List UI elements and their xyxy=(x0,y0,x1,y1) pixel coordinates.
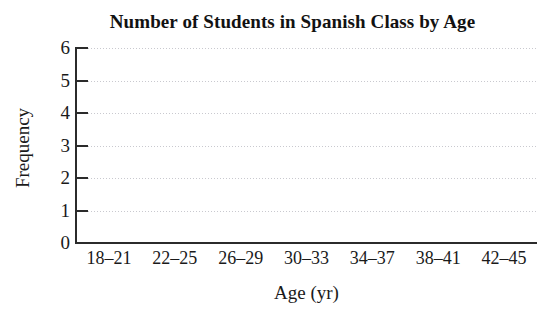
x-axis-tick-label: 22–25 xyxy=(142,248,208,269)
y-axis-tick-label: 4 xyxy=(46,103,70,122)
y-axis-tick xyxy=(75,177,88,179)
y-axis-tick xyxy=(75,145,88,147)
gridline xyxy=(76,178,537,179)
x-axis-line xyxy=(75,242,537,244)
y-axis-tick-label: 5 xyxy=(46,71,70,90)
chart-title: Number of Students in Spanish Class by A… xyxy=(0,11,557,33)
gridline xyxy=(76,146,537,147)
y-axis-tick-label: 3 xyxy=(46,136,70,155)
gridline xyxy=(76,113,537,114)
x-axis-tick-label: 18–21 xyxy=(76,248,142,269)
gridline xyxy=(76,211,537,212)
plot-area xyxy=(76,48,537,243)
y-axis-title: Frequency xyxy=(12,78,34,218)
y-axis-tick-label: 1 xyxy=(46,201,70,220)
x-axis-title: Age (yr) xyxy=(76,282,537,304)
y-axis-tick-label: 0 xyxy=(46,233,70,252)
x-axis-tick-label: 34–37 xyxy=(339,248,405,269)
gridline xyxy=(76,81,537,82)
x-axis-tick-label: 42–45 xyxy=(471,248,537,269)
x-axis-tick-label: 38–41 xyxy=(405,248,471,269)
y-axis-tick xyxy=(75,47,88,49)
y-axis-tick xyxy=(75,80,88,82)
y-axis-tick-label: 2 xyxy=(46,168,70,187)
chart-container: Number of Students in Spanish Class by A… xyxy=(0,0,557,323)
y-axis-tick xyxy=(75,210,88,212)
gridline xyxy=(76,48,537,49)
x-axis-tick-label: 30–33 xyxy=(274,248,340,269)
x-axis-tick-label: 26–29 xyxy=(208,248,274,269)
y-axis-tick-label: 6 xyxy=(46,38,70,57)
y-axis-tick xyxy=(75,112,88,114)
